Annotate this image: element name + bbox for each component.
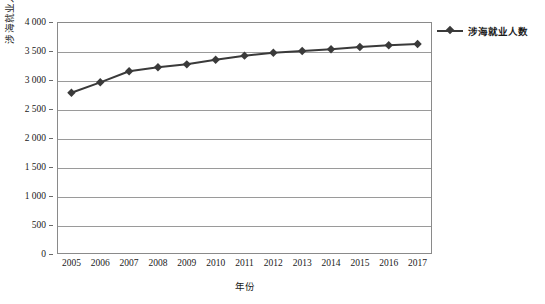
data-point-marker xyxy=(240,51,248,59)
data-point-marker xyxy=(356,43,364,51)
x-axis-tick-label: 2011 xyxy=(235,258,254,268)
data-point-marker xyxy=(413,40,421,48)
data-point-marker xyxy=(67,89,75,97)
y-axis-tick-mark xyxy=(49,167,53,168)
x-axis-tick-label: 2014 xyxy=(322,258,341,268)
x-axis-title: 年份 xyxy=(0,279,490,293)
legend-line-marker-icon xyxy=(437,26,463,36)
x-axis-tick-label: 2005 xyxy=(62,258,81,268)
y-axis-tick-label: 0 xyxy=(41,249,46,259)
y-axis-tick-mark xyxy=(49,225,53,226)
chart-legend: 涉海就业人数 xyxy=(437,24,528,38)
y-axis-tick-label: 2 000 xyxy=(25,133,46,143)
x-axis-tick-label: 2012 xyxy=(264,258,283,268)
y-axis-tick-mark xyxy=(49,22,53,23)
data-point-marker xyxy=(183,60,191,68)
y-axis-tick-mark xyxy=(49,51,53,52)
x-axis-tick-label: 2007 xyxy=(120,258,139,268)
x-axis-tick-label: 2015 xyxy=(350,258,369,268)
data-point-marker xyxy=(327,45,335,53)
x-axis-tick-label: 2006 xyxy=(91,258,110,268)
x-axis-tick-label: 2016 xyxy=(379,258,398,268)
y-axis-tick-labels: 4 0003 5003 0002 5002 0001 5001 0005000 xyxy=(0,22,53,254)
x-axis-tick-label: 2009 xyxy=(177,258,196,268)
y-axis-tick-label: 3 000 xyxy=(25,75,46,85)
chart-figure: 涉海就业人员数 (万人) 4 0003 5003 0002 5002 0001 … xyxy=(0,0,545,304)
y-axis-tick-label: 3 500 xyxy=(25,46,46,56)
series-line xyxy=(71,44,417,93)
y-axis-tick-label: 4 000 xyxy=(25,17,46,27)
x-axis-tick-label: 2017 xyxy=(408,258,427,268)
y-axis-tick-label: 2 500 xyxy=(25,104,46,114)
data-point-marker xyxy=(385,41,393,49)
data-point-marker xyxy=(211,56,219,64)
y-axis-tick-mark xyxy=(49,80,53,81)
y-axis-tick-label: 1 000 xyxy=(25,191,46,201)
x-axis-tick-labels: 2005200620072008200920102011201220132014… xyxy=(57,258,432,274)
y-axis-tick-label: 1 500 xyxy=(25,162,46,172)
y-axis-tick-mark xyxy=(49,196,53,197)
data-point-marker xyxy=(269,49,277,57)
y-axis-tick-mark xyxy=(49,109,53,110)
x-axis-tick-label: 2008 xyxy=(148,258,167,268)
series-layer xyxy=(57,22,432,254)
data-point-marker xyxy=(125,67,133,75)
legend-item-label: 涉海就业人数 xyxy=(468,24,528,38)
x-axis-tick-label: 2013 xyxy=(293,258,312,268)
data-point-marker xyxy=(96,78,104,86)
x-axis-tick-label: 2010 xyxy=(206,258,225,268)
y-axis-tick-mark xyxy=(49,254,53,255)
data-point-marker xyxy=(154,63,162,71)
y-axis-tick-mark xyxy=(49,138,53,139)
data-point-marker xyxy=(298,47,306,55)
y-axis-tick-label: 500 xyxy=(32,220,46,230)
